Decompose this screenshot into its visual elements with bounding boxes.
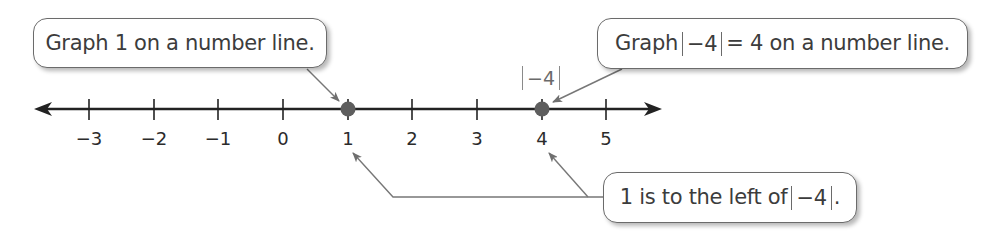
callout-graph-abs-suffix: = 4 on a number line. (726, 33, 950, 54)
point-one (341, 102, 356, 117)
number-line-diagram: −3 −2 −1 0 1 2 3 4 5 −4 Graph 1 on a num… (0, 0, 986, 239)
callout-comparison-prefix: 1 is to the left of (620, 187, 788, 208)
tick-label: 0 (263, 128, 303, 149)
point-abs-neg-four (535, 102, 550, 117)
leader-comparison-four (549, 153, 588, 197)
tick-label: 2 (392, 128, 432, 149)
tick-label: 5 (586, 128, 626, 149)
callout-graph-abs-value: −4 (682, 32, 722, 56)
callout-comparison-value: −4 (791, 186, 831, 210)
tick-label: −1 (198, 128, 238, 149)
leader-graph-one (307, 69, 339, 101)
callout-graph-abs: Graph −4 = 4 on a number line. (597, 18, 968, 69)
point-label-abs-neg-four: −4 (522, 66, 560, 90)
tick-label: −3 (69, 128, 109, 149)
callout-graph-abs-prefix: Graph (615, 33, 678, 54)
leader-comparison (353, 153, 603, 197)
tick-label: 3 (457, 128, 497, 149)
leader-graph-abs (553, 69, 622, 102)
callout-graph-one-text: Graph 1 on a number line. (45, 33, 314, 54)
absolute-value-bars: −4 (522, 66, 560, 90)
tick-label: 4 (522, 128, 562, 149)
tick-label: −2 (134, 128, 174, 149)
callout-comparison: 1 is to the left of −4 . (603, 172, 857, 223)
callout-graph-one: Graph 1 on a number line. (33, 18, 327, 68)
tick-label: 1 (328, 128, 368, 149)
callout-comparison-suffix: . (834, 187, 840, 208)
